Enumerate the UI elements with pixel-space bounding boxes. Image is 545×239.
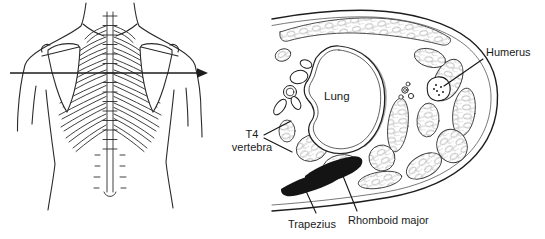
anatomy-diagram: Lung Humerus T4 vertebra Trapezius Rhomb… [0,0,545,239]
cross-section-figure [264,10,498,213]
posterior-torso-figure [18,3,203,210]
humerus-shape [399,77,450,101]
lung-label: Lung [324,90,350,103]
t4-vertebra-label: T4 vertebra [229,128,275,153]
arrow-head-icon [197,68,208,77]
t4-level-arrow [10,68,208,77]
humerus-label: Humerus [486,46,531,59]
upper-back-muscle-band [280,18,451,45]
trapezius-label: Trapezius [288,218,336,231]
torso-outline [18,3,203,210]
t4-vertebra-label-line2: vertebra [229,141,275,154]
t4-vertebra-label-line1: T4 [229,128,275,141]
diagram-artwork [0,0,545,239]
rhomboid-major-label: Rhomboid major [348,214,429,227]
